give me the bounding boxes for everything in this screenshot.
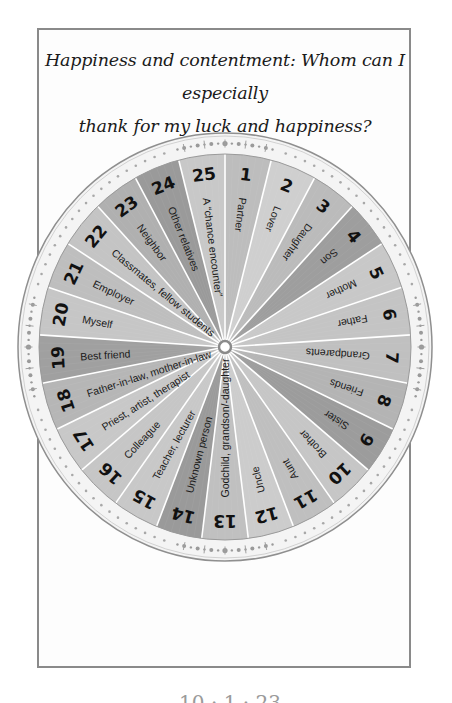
segment-number: 13: [213, 511, 237, 531]
segment-label: Godchild, grandson/-daughter: [219, 358, 231, 497]
segment-number: 25: [191, 163, 217, 186]
segment-number: 1: [239, 164, 253, 185]
segment-number: 7: [382, 351, 403, 364]
segment-number: 19: [47, 345, 68, 370]
footer-cut-text: 10 · 1 · 23: [160, 693, 300, 703]
